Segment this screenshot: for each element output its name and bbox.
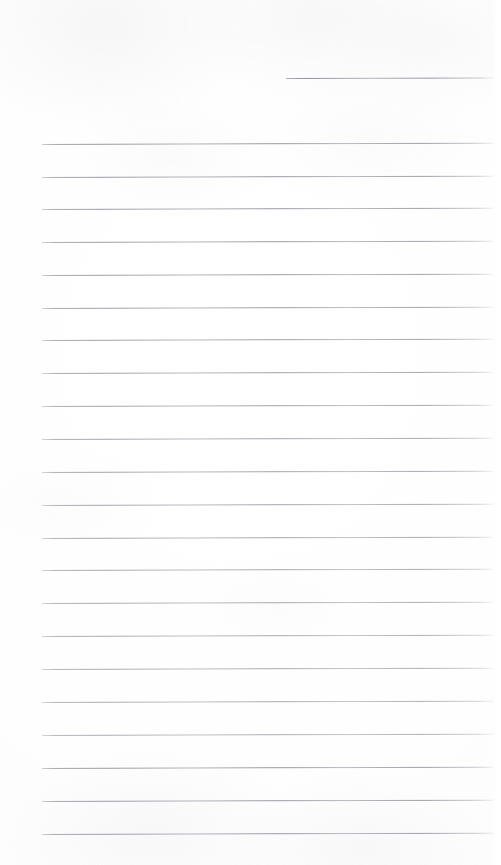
scanned-page [0, 0, 501, 865]
